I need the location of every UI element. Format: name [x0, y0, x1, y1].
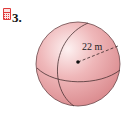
radius-label: 22 m	[82, 41, 103, 52]
center-point	[76, 60, 80, 64]
sphere-figure: 22 m	[0, 0, 123, 116]
sphere	[36, 22, 120, 106]
